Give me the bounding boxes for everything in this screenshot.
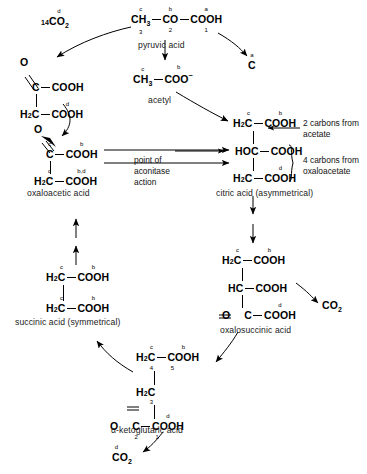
bond-icon (67, 308, 76, 309)
label-oxaloacetic-acid: oxaloacetic acid (27, 188, 90, 198)
molecule-co2-labeled-left: 14 d CO2 (41, 16, 69, 29)
oxaloacetate-cooh2: COOH (65, 175, 97, 187)
molecule-oxaloacetic-acid: O c C b COOH H2 c C b,d COOH (34, 124, 98, 187)
label-sup-c: c (48, 141, 51, 147)
citrate-h2-1: H (233, 118, 241, 129)
label-sub-5: 5 (171, 365, 174, 371)
citrate-hoc: HOC (235, 146, 259, 157)
oxaloacetate-upper-cooh2: COOH (51, 108, 83, 120)
carbon-a-group: a C (248, 60, 256, 71)
oxalosuccinate-hc: HC (228, 283, 243, 294)
aconitase-line-1: point of (134, 155, 170, 166)
label-sub-3: 3 (150, 399, 153, 405)
label-sub-4: 4 (150, 365, 153, 371)
bond-icon (36, 94, 37, 107)
label-sup-c: c (236, 247, 239, 253)
label-sup-bd: b,d (77, 168, 85, 174)
bond-icon (253, 315, 262, 316)
label-sup-b: b (177, 64, 180, 70)
label-sup-b: b (92, 295, 95, 301)
molecule-co2-right: CO2 (322, 300, 342, 313)
co2-left-subscript: 2 (65, 22, 69, 29)
label-sup-d: d (166, 413, 169, 419)
succinate-c1: C (58, 271, 66, 283)
bond-icon (154, 371, 155, 385)
citrate-h2-3: H (233, 173, 241, 184)
citrate-cooh2: COOH (271, 146, 303, 157)
label-oxalosuccinic-acid: oxalosuccinic acid (220, 325, 291, 335)
bond-icon (245, 288, 254, 289)
annotation-oxaloacetate-carbons: 4 carbons from oxaloacetate (303, 155, 359, 177)
oxaloacetate-c1-group: c C (46, 149, 54, 160)
arrow-oxalosuccinate-to-ketoglutarate (216, 332, 238, 362)
bond-icon (154, 79, 163, 80)
ketoglutarate-c1: C (148, 351, 156, 363)
bond-icon (254, 123, 263, 124)
oxalosuccinate-c1: C (234, 254, 242, 266)
arrow-pyruvate-to-co2 (57, 27, 131, 57)
succinate-h2-2: H (46, 303, 54, 314)
pyruvic-acid-chain: c CH3 3 b CO 2 a COOH 1 (131, 14, 222, 27)
succinate-h2-1: H (46, 272, 54, 283)
oxalosuccinate-oxygen: O (222, 310, 230, 321)
ketoglutarate-h2-1: H (136, 352, 144, 363)
label-sup-d: d (279, 165, 282, 171)
citrate-row3: H2C d COOH (233, 173, 303, 184)
oxaloacetate-upper-row1: C COOH (32, 82, 84, 93)
oxaloacetate-h2: H (34, 176, 42, 187)
bond-icon (242, 295, 243, 308)
label-acetyl: acetyl (148, 95, 171, 105)
molecule-oxaloacetate-upper: O C COOH H2C d COOH (20, 57, 84, 120)
bond-icon (55, 181, 64, 182)
oxalosuccinate-cooh3: COOH (264, 309, 296, 321)
co2-right-subscript: 2 (338, 306, 342, 313)
arrow-acetyl-to-citrate (176, 92, 228, 121)
succinate-cooh2: COOH (77, 302, 109, 314)
pyruvic-cooh-group: a COOH 1 (190, 14, 222, 25)
co2-bottom-group: d CO2 (112, 452, 132, 465)
label-alpha-ketoglutaric-acid: α-ketoglutaric acid (111, 425, 183, 435)
label-sup-b: b (279, 110, 282, 116)
oxalosuccinate-h2-1: H (222, 255, 230, 266)
ketoglutarate-c1-group: c C 4 (148, 352, 156, 363)
oxaloacetate-cooh1-group: b COOH (66, 149, 98, 160)
bond-icon (243, 260, 252, 261)
annotation-aconitase: point of aconitase action (134, 155, 170, 188)
ketoglutarate-row2: H2 C 3 (136, 387, 199, 398)
molecule-carbon-a: a C (248, 60, 256, 71)
co2-bottom-body: CO (112, 451, 128, 463)
label-sup-c: c (247, 110, 250, 116)
succinate-c2-group: c C (58, 303, 66, 314)
label-sup-c: c (150, 344, 153, 350)
krebs-cycle-diagram: c CH3 3 b CO 2 a COOH 1 pyruvic acid 14 … (0, 0, 367, 474)
pyruvic-co-text: CO (162, 13, 178, 25)
label-sup-b: b (80, 141, 83, 147)
oxalosuccinate-row1: H2 c C b COOH (222, 255, 296, 266)
label-sup-c: c (60, 264, 63, 270)
bond-icon (180, 19, 189, 20)
label-sub-2: 2 (169, 27, 172, 33)
pyruvic-ch3-group: c CH3 3 (131, 14, 150, 27)
acetate-note-line-2: acetate (303, 129, 359, 140)
ketoglutarate-row1: H2 c C 4 b COOH 5 (136, 352, 199, 363)
oxaloacetate-upper-h2: H (20, 109, 28, 120)
molecule-oxalosuccinic-acid: H2 c C b COOH HC COOH O C d COOH (222, 255, 296, 321)
ketoglutarate-cooh1: COOH (167, 351, 199, 363)
citrate-cooh1: COOH (264, 117, 296, 129)
citrate-cooh1-group: b COOH (264, 118, 296, 129)
ketoglutarate-h2-2: H (136, 387, 144, 398)
citrate-cooh3-group: d COOH (264, 173, 296, 184)
bond-icon (157, 357, 166, 358)
arrow-pyruvate-to-carbon-a (218, 33, 247, 56)
bond-icon (253, 131, 254, 144)
label-sup-b: b (92, 264, 95, 270)
label-sup-c: c (48, 168, 51, 174)
acetyl-chain: c CH3 b COO− (133, 72, 193, 87)
citrate-c1-group: c C (245, 118, 253, 129)
label-sup-b: b (268, 247, 271, 253)
annotation-acetate-carbons: 2 carbons from acetate (303, 118, 359, 140)
oxaloacetate-upper-c2: C (32, 109, 40, 120)
co2-left-body-group: d CO2 (49, 16, 69, 29)
molecule-co2-bottom: d CO2 (112, 452, 132, 465)
molecule-succinic-acid: H2 c C b COOH H2 c C b COOH (46, 272, 109, 313)
